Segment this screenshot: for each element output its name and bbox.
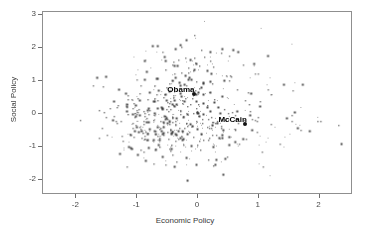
x-tick-mark <box>197 194 198 198</box>
y-tick-mark <box>38 80 42 81</box>
y-tick-label: -1 <box>22 141 36 150</box>
mccain-point-label: McCain <box>218 115 246 124</box>
x-tick-mark <box>258 194 259 198</box>
x-tick-mark <box>319 194 320 198</box>
y-tick-mark <box>38 179 42 180</box>
x-tick-label: -1 <box>124 200 148 209</box>
x-tick-label: -2 <box>63 200 87 209</box>
x-tick-label: 0 <box>185 200 209 209</box>
plot-area: Obama McCain <box>42 11 352 194</box>
y-tick-label: -2 <box>22 174 36 183</box>
x-tick-mark <box>75 194 76 198</box>
x-axis-label: Economic Policy <box>0 216 370 225</box>
x-tick-mark <box>136 194 137 198</box>
y-tick-mark <box>38 146 42 147</box>
y-tick-mark <box>38 47 42 48</box>
y-tick-mark <box>38 14 42 15</box>
y-tick-label: 1 <box>22 75 36 84</box>
y-tick-label: 2 <box>22 42 36 51</box>
y-axis-label: Social Policy <box>9 55 18 145</box>
x-tick-label: 2 <box>307 200 331 209</box>
y-tick-label: 0 <box>22 108 36 117</box>
scatter-points-layer <box>43 12 351 193</box>
y-tick-label: 3 <box>22 9 36 18</box>
x-tick-label: 1 <box>246 200 270 209</box>
scatter-plot-figure: Obama McCain -2-1012 -2-10123 Economic P… <box>0 0 370 236</box>
y-tick-mark <box>38 113 42 114</box>
obama-point-label: Obama <box>167 85 194 94</box>
